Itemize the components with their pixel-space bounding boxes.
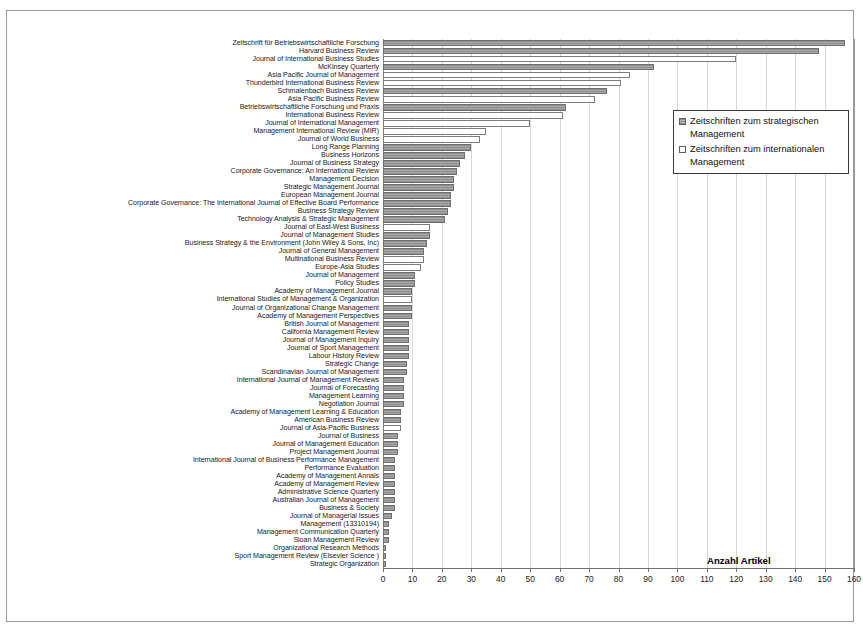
bar-row[interactable]: Journal of Business bbox=[383, 432, 854, 440]
bar-strategisch[interactable] bbox=[383, 529, 389, 535]
bar-row[interactable]: Australian Journal of Management bbox=[383, 496, 854, 504]
bar-strategisch[interactable] bbox=[383, 64, 654, 70]
bar-strategisch[interactable] bbox=[383, 152, 465, 158]
bar-international[interactable] bbox=[383, 56, 736, 62]
bar-strategisch[interactable] bbox=[383, 48, 819, 54]
bar-international[interactable] bbox=[383, 136, 480, 142]
bar-row[interactable]: Administrative Science Quarterly bbox=[383, 488, 854, 496]
bar-row[interactable]: Management Communication Quarterly bbox=[383, 528, 854, 536]
bar-strategisch[interactable] bbox=[383, 497, 395, 503]
bar-row[interactable]: Zeitschrift für Betriebswirtschaftliche … bbox=[383, 39, 854, 47]
bar-row[interactable]: Journal of Managerial Issues bbox=[383, 512, 854, 520]
bar-row[interactable]: Project Management Journal bbox=[383, 448, 854, 456]
bar-strategisch[interactable] bbox=[383, 248, 424, 254]
bar-international[interactable] bbox=[383, 256, 424, 262]
bar-strategisch[interactable] bbox=[383, 200, 451, 206]
bar-row[interactable]: Technology Analysis & Strategic Manageme… bbox=[383, 215, 854, 223]
bar-row[interactable]: Journal of Forecasting bbox=[383, 384, 854, 392]
bar-international[interactable] bbox=[383, 96, 595, 102]
bar-strategisch[interactable] bbox=[383, 184, 454, 190]
bar-row[interactable]: Journal of Management Studies bbox=[383, 231, 854, 239]
bar-strategisch[interactable] bbox=[383, 329, 409, 335]
bar-strategisch[interactable] bbox=[383, 288, 412, 294]
bar-strategisch[interactable] bbox=[383, 144, 471, 150]
bar-strategisch[interactable] bbox=[383, 489, 395, 495]
bar-row[interactable]: Schmalenbach Business Review bbox=[383, 87, 854, 95]
bar-international[interactable] bbox=[383, 120, 530, 126]
bar-strategisch[interactable] bbox=[383, 433, 398, 439]
bar-row[interactable]: California Management Review bbox=[383, 328, 854, 336]
bar-strategisch[interactable] bbox=[383, 521, 389, 527]
bar-strategisch[interactable] bbox=[383, 417, 401, 423]
bar-row[interactable]: Management Learning bbox=[383, 392, 854, 400]
bar-strategisch[interactable] bbox=[383, 160, 460, 166]
bar-row[interactable]: Multinational Business Review bbox=[383, 255, 854, 263]
bar-row[interactable]: Journal of Management bbox=[383, 271, 854, 279]
bar-row[interactable]: European Management Journal bbox=[383, 191, 854, 199]
bar-row[interactable]: Journal of Management Inquiry bbox=[383, 336, 854, 344]
bar-row[interactable]: Scandinavian Journal of Management bbox=[383, 368, 854, 376]
bar-strategisch[interactable] bbox=[383, 409, 401, 415]
bar-strategisch[interactable] bbox=[383, 377, 404, 383]
bar-international[interactable] bbox=[383, 112, 563, 118]
bar-row[interactable]: Corporate Governance: The International … bbox=[383, 199, 854, 207]
bar-row[interactable]: Sport Management Review (Elsevier Scienc… bbox=[383, 552, 854, 560]
bar-row[interactable]: Management Decision bbox=[383, 175, 854, 183]
bar-strategisch[interactable] bbox=[383, 481, 395, 487]
bar-row[interactable]: Journal of Sport Management bbox=[383, 344, 854, 352]
bar-row[interactable]: Management (13310194) bbox=[383, 520, 854, 528]
bar-strategisch[interactable] bbox=[383, 337, 409, 343]
bar-strategisch[interactable] bbox=[383, 505, 395, 511]
bar-strategisch[interactable] bbox=[383, 272, 415, 278]
bar-row[interactable]: Thunderbird International Business Revie… bbox=[383, 79, 854, 87]
bar-row[interactable]: Business Strategy & the Environment (Joh… bbox=[383, 239, 854, 247]
bar-strategisch[interactable] bbox=[383, 513, 392, 519]
bar-strategisch[interactable] bbox=[383, 305, 412, 311]
bar-row[interactable]: Negotiation Journal bbox=[383, 400, 854, 408]
bar-strategisch[interactable] bbox=[383, 240, 427, 246]
bar-row[interactable]: Asia Pacific Business Review bbox=[383, 95, 854, 103]
bar-strategisch[interactable] bbox=[383, 401, 404, 407]
bar-row[interactable]: Harvard Business Review bbox=[383, 47, 854, 55]
bar-strategisch[interactable] bbox=[383, 176, 454, 182]
bar-strategisch[interactable] bbox=[383, 473, 395, 479]
bar-international[interactable] bbox=[383, 224, 430, 230]
bar-strategisch[interactable] bbox=[383, 192, 451, 198]
bar-strategisch[interactable] bbox=[383, 40, 845, 46]
bar-strategisch[interactable] bbox=[383, 457, 395, 463]
bar-strategisch[interactable] bbox=[383, 369, 407, 375]
bar-row[interactable]: McKinsey Quarterly bbox=[383, 63, 854, 71]
bar-strategisch[interactable] bbox=[383, 561, 386, 567]
bar-international[interactable] bbox=[383, 425, 401, 431]
bar-strategisch[interactable] bbox=[383, 345, 409, 351]
bar-row[interactable]: Sloan Management Review bbox=[383, 536, 854, 544]
bar-row[interactable]: Journal of Management Education bbox=[383, 440, 854, 448]
bar-row[interactable]: International Journal of Business Perfor… bbox=[383, 456, 854, 464]
bar-international[interactable] bbox=[383, 296, 412, 302]
bar-row[interactable]: International Journal of Management Revi… bbox=[383, 376, 854, 384]
bar-strategisch[interactable] bbox=[383, 353, 409, 359]
bar-row[interactable]: Academy of Management Journal bbox=[383, 287, 854, 295]
bar-international[interactable] bbox=[383, 72, 630, 78]
bar-row[interactable]: Journal of Asia-Pacific Business bbox=[383, 424, 854, 432]
bar-row[interactable]: Labour History Review bbox=[383, 352, 854, 360]
bar-strategisch[interactable] bbox=[383, 313, 412, 319]
bar-row[interactable]: Academy of Management Annals bbox=[383, 472, 854, 480]
bar-row[interactable]: British Journal of Management bbox=[383, 320, 854, 328]
bar-strategisch[interactable] bbox=[383, 385, 404, 391]
bar-row[interactable]: Europe-Asia Studies bbox=[383, 263, 854, 271]
bar-strategisch[interactable] bbox=[383, 321, 409, 327]
bar-strategisch[interactable] bbox=[383, 545, 386, 551]
bar-row[interactable]: Organizational Research Methods bbox=[383, 544, 854, 552]
bar-strategisch[interactable] bbox=[383, 361, 407, 367]
bar-row[interactable]: Academy of Management Learning & Educati… bbox=[383, 408, 854, 416]
bar-row[interactable]: Academy of Management Review bbox=[383, 480, 854, 488]
bar-international[interactable] bbox=[383, 264, 421, 270]
bar-strategisch[interactable] bbox=[383, 553, 386, 559]
bar-strategisch[interactable] bbox=[383, 216, 445, 222]
bar-strategisch[interactable] bbox=[383, 449, 398, 455]
bar-strategisch[interactable] bbox=[383, 441, 398, 447]
bar-strategisch[interactable] bbox=[383, 537, 389, 543]
bar-strategisch[interactable] bbox=[383, 393, 404, 399]
bar-row[interactable]: Journal of General Management bbox=[383, 247, 854, 255]
